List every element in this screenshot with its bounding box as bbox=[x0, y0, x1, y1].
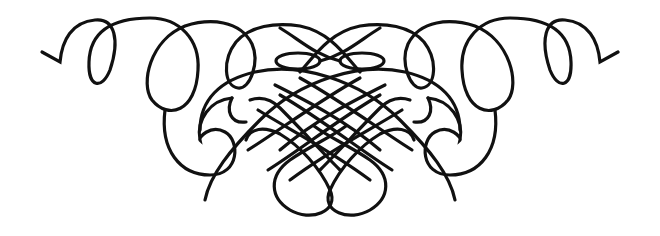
calligraphic-flourish-ornament bbox=[0, 0, 660, 236]
